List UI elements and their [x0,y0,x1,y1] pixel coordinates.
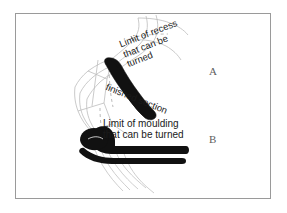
annotation-moulding-line-1: Limit of moulding [103,118,184,129]
reference-label-b: B [209,133,217,145]
annotation-limit-of-moulding: Limit of moulding that can be turned [103,118,184,140]
reference-label-a: A [209,65,217,77]
annotation-moulding-line-2: that can be turned [103,129,184,140]
figure-root: A B Limit of recess that can be turned f… [0,0,287,213]
